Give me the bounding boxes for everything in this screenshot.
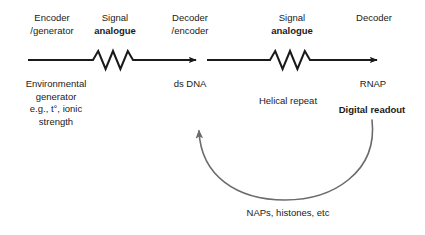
- label-naps-histones-text: NAPs, histones, etc: [225, 207, 351, 220]
- label-ds-dna-text: ds DNA: [155, 78, 225, 91]
- label-helical-repeat-text: Helical repeat: [243, 95, 333, 108]
- label-environmental-generator-line3: e.g., t°, ionic: [4, 103, 108, 116]
- label-ds-dna: ds DNA: [155, 78, 225, 91]
- arrow-1-path: [28, 51, 196, 69]
- arrow-2: [207, 51, 377, 69]
- label-environmental-generator-line4: strength: [4, 116, 108, 129]
- label-digital-readout-text: Digital readout: [322, 104, 422, 117]
- label-environmental-generator-line1: Environmental: [4, 78, 108, 91]
- label-environmental-generator-line2: generator: [4, 91, 108, 104]
- label-digital-readout: Digital readout: [322, 104, 422, 117]
- arrow-2-path: [207, 51, 377, 69]
- arrow-1: [28, 51, 196, 69]
- feedback-curve-path: [199, 120, 373, 200]
- label-environmental-generator: Environmental generator e.g., t°, ionic …: [4, 78, 108, 128]
- label-rnap-text: RNAP: [340, 78, 406, 91]
- diagram-canvas: Encoder /generator Signal analogue Decod…: [0, 0, 425, 235]
- label-helical-repeat: Helical repeat: [243, 95, 333, 108]
- label-rnap: RNAP: [340, 78, 406, 91]
- feedback-curve: [199, 120, 373, 200]
- label-naps-histones: NAPs, histones, etc: [225, 207, 351, 220]
